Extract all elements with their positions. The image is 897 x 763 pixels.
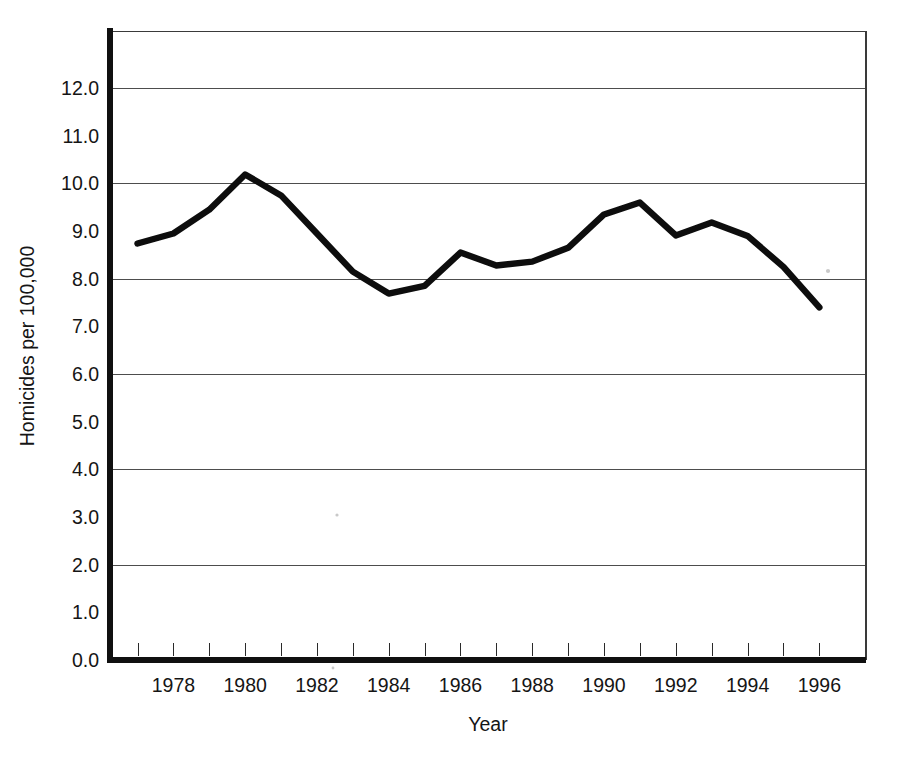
x-tick-label-1984: 1984: [367, 674, 411, 696]
scan-speck: [335, 513, 338, 516]
x-tick-label-1988: 1988: [511, 674, 554, 696]
x-tick-label-1980: 1980: [223, 674, 267, 696]
y-tick-label-11.0: 11.0: [62, 125, 99, 147]
y-tick-label-1.0: 1.0: [72, 601, 99, 623]
x-tick-label-1986: 1986: [439, 674, 482, 696]
x-tick-label-1990: 1990: [582, 674, 626, 696]
x-tick-label-1992: 1992: [654, 674, 697, 696]
x-axis-tick-labels: 1978198019821984198619881990199219941996: [152, 674, 841, 696]
scan-speck: [826, 269, 830, 273]
y-tick-label-10.0: 10.0: [61, 172, 99, 194]
scan-speck: [332, 667, 335, 670]
y-tick-label-12.0: 12.0: [61, 77, 99, 99]
x-tick-label-1982: 1982: [295, 674, 338, 696]
chart-figure: 0.01.02.03.04.05.06.07.08.09.010.011.012…: [0, 0, 897, 763]
y-tick-label-5.0: 5.0: [72, 411, 99, 433]
y-axis-title: Homicides per 100,000: [16, 246, 38, 447]
y-tick-label-6.0: 6.0: [72, 363, 99, 385]
y-tick-label-8.0: 8.0: [72, 268, 99, 290]
y-tick-label-9.0: 9.0: [72, 220, 99, 242]
x-axis-title: Year: [468, 713, 508, 735]
y-tick-label-3.0: 3.0: [72, 506, 99, 528]
x-tick-label-1996: 1996: [798, 674, 841, 696]
y-axis-tick-labels: 0.01.02.03.04.05.06.07.08.09.010.011.012…: [61, 77, 99, 671]
x-tick-label-1994: 1994: [726, 674, 770, 696]
y-tick-label-2.0: 2.0: [72, 554, 99, 576]
y-tick-label-7.0: 7.0: [72, 315, 99, 337]
y-tick-label-0.0: 0.0: [72, 649, 99, 671]
y-tick-label-4.0: 4.0: [72, 458, 99, 480]
line-chart-canvas: 0.01.02.03.04.05.06.07.08.09.010.011.012…: [0, 0, 897, 763]
x-tick-label-1978: 1978: [152, 674, 195, 696]
